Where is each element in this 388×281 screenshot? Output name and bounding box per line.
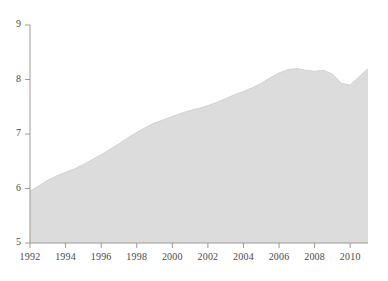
x-axis-tick-label: 2000 <box>152 252 192 262</box>
x-axis-tick-label: 1996 <box>81 252 121 262</box>
x-axis-tick-label: 1998 <box>117 252 157 262</box>
area-series-fill <box>30 69 368 243</box>
x-axis-tick-label: 1994 <box>46 252 86 262</box>
y-axis-tick-label: 6 <box>5 183 21 193</box>
x-axis-ticks <box>30 243 350 248</box>
x-axis-tick-label: 2006 <box>259 252 299 262</box>
x-axis-tick-label: 2004 <box>223 252 263 262</box>
x-axis-tick-label: 2008 <box>295 252 335 262</box>
chart-plot-area <box>0 0 388 281</box>
y-axis-ticks <box>25 25 30 243</box>
y-axis-tick-label: 9 <box>5 19 21 29</box>
x-axis-tick-label: 2002 <box>188 252 228 262</box>
area-chart: 56789 1992199419961998200020022004200620… <box>0 0 388 281</box>
y-axis-tick-label: 5 <box>5 237 21 247</box>
y-axis-tick-label: 7 <box>5 128 21 138</box>
y-axis-tick-label: 8 <box>5 74 21 84</box>
x-axis-tick-label: 2010 <box>330 252 370 262</box>
x-axis-tick-label: 1992 <box>10 252 50 262</box>
area-series-group <box>30 69 368 243</box>
